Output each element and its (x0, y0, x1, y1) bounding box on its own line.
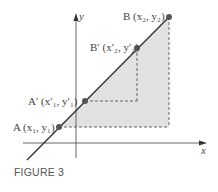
point-B (166, 14, 172, 20)
label-point-B-prime: B′ (x′₂, y′₂) (90, 42, 139, 53)
y-axis-label: y (79, 11, 84, 22)
x-axis-label: x (201, 145, 206, 156)
point-A (56, 124, 62, 130)
figure-caption: FIGURE 3 (14, 166, 64, 178)
point-A-prime (82, 98, 88, 104)
y-axis-arrow-icon (74, 13, 79, 21)
label-point-B: B (x₂, y₂) (123, 11, 165, 22)
label-point-A-prime: A′ (x′₁, y′₁) (28, 96, 77, 107)
label-point-A: A (x₁, y₁) (13, 122, 55, 133)
